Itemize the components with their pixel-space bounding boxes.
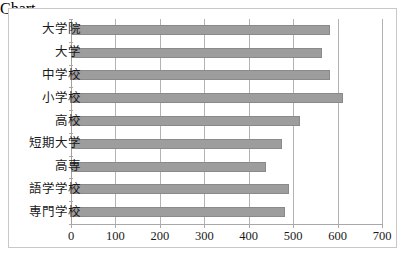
y-tick-mark (69, 224, 73, 225)
category-label: 大学院 (0, 23, 81, 36)
x-tick-mark-600 (338, 224, 339, 228)
x-tick-label: 400 (229, 230, 269, 243)
x-axis-line (71, 224, 383, 225)
gridline-700 (382, 19, 383, 224)
category-label: 短期大学 (0, 137, 81, 150)
bar (71, 139, 282, 149)
x-tick-mark-500 (293, 224, 294, 228)
x-tick-label: 300 (184, 230, 224, 243)
x-tick-label: 600 (318, 230, 358, 243)
bar-row (71, 87, 382, 110)
bar-row (71, 110, 382, 133)
bar (71, 70, 330, 80)
bar (71, 184, 289, 194)
y-tick-mark (69, 87, 73, 88)
bar (71, 207, 285, 217)
category-label: 中学校 (0, 69, 81, 82)
chart-frame: 0100200300400500600700大学院大学中学校小学校高校短期大学高… (8, 8, 397, 248)
category-label: 小学校 (0, 92, 81, 105)
x-tick-mark-400 (249, 224, 250, 228)
x-tick-mark-200 (160, 224, 161, 228)
x-tick-label: 200 (140, 230, 180, 243)
category-label: 高専 (0, 160, 81, 173)
y-tick-mark (69, 133, 73, 134)
bar-row (71, 19, 382, 42)
x-tick-label: 100 (95, 230, 135, 243)
x-tick-mark-300 (204, 224, 205, 228)
y-tick-mark (69, 65, 73, 66)
y-tick-mark (69, 42, 73, 43)
bar-row (71, 178, 382, 201)
category-label: 語学学校 (0, 183, 81, 196)
category-label: 専門学校 (0, 206, 81, 219)
y-tick-mark (69, 156, 73, 157)
y-tick-mark (69, 201, 73, 202)
bar-row (71, 201, 382, 224)
bar (71, 48, 322, 58)
x-tick-label: 0 (51, 230, 91, 243)
x-tick-label: 500 (273, 230, 313, 243)
plot-area (71, 19, 382, 224)
y-tick-mark (69, 178, 73, 179)
bar-row (71, 133, 382, 156)
x-tick-label: 700 (362, 230, 402, 243)
category-label: 高校 (0, 115, 81, 128)
x-tick-mark-100 (115, 224, 116, 228)
bar-row (71, 156, 382, 179)
bar (71, 93, 343, 103)
bar (71, 162, 266, 172)
x-tick-mark-700 (382, 224, 383, 228)
bar-row (71, 42, 382, 65)
bar-row (71, 65, 382, 88)
category-label: 大学 (0, 46, 81, 59)
y-tick-mark (69, 110, 73, 111)
y-tick-mark (69, 19, 73, 20)
bar (71, 25, 330, 35)
bar (71, 116, 300, 126)
